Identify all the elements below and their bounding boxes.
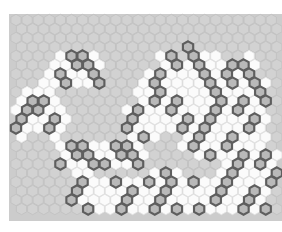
hex-cell-cleared[interactable] (105, 203, 115, 214)
hex-cell-marked[interactable] (139, 131, 149, 142)
hex-cell-marked[interactable] (261, 95, 271, 106)
hex-cell-cleared[interactable] (33, 122, 43, 133)
hex-cell-empty[interactable] (28, 203, 38, 214)
hex-cell-marked[interactable] (211, 194, 221, 205)
hex-cell-marked[interactable] (150, 203, 160, 214)
hex-cell-marked[interactable] (55, 158, 65, 169)
hex-cell-marked[interactable] (72, 59, 82, 70)
hex-cell-marked[interactable] (66, 194, 76, 205)
hex-cell-marked[interactable] (266, 176, 276, 187)
hex-cell-cleared[interactable] (94, 203, 104, 214)
hex-cell-marked[interactable] (72, 149, 82, 160)
hex-cell-marked[interactable] (100, 158, 110, 169)
hex-cell-cleared[interactable] (177, 140, 187, 151)
hex-grid-canvas (0, 0, 282, 232)
hex-cell-marked[interactable] (233, 104, 243, 115)
hex-cell-marked[interactable] (116, 149, 126, 160)
hex-cell-marked[interactable] (44, 122, 54, 133)
hex-cell-empty[interactable] (272, 203, 282, 214)
hex-cell-marked[interactable] (261, 203, 271, 214)
hex-cell-marked[interactable] (166, 104, 176, 115)
hex-cell-marked[interactable] (61, 77, 71, 88)
hex-cell-cleared[interactable] (166, 122, 176, 133)
hex-cell-cleared[interactable] (150, 131, 160, 142)
hex-cell-marked[interactable] (205, 149, 215, 160)
hex-cell-cleared[interactable] (72, 77, 82, 88)
hex-cell-marked[interactable] (172, 59, 182, 70)
hex-cell-marked[interactable] (33, 104, 43, 115)
hex-cell-marked[interactable] (89, 158, 99, 169)
hex-cell-marked[interactable] (255, 158, 265, 169)
hex-cell-marked[interactable] (144, 176, 154, 187)
hex-cell-marked[interactable] (122, 122, 132, 133)
hex-cell-empty[interactable] (50, 203, 60, 214)
hex-cell-marked[interactable] (11, 122, 21, 133)
hex-cell-marked[interactable] (116, 203, 126, 214)
hex-cell-marked[interactable] (94, 77, 104, 88)
hex-cell-marked[interactable] (83, 203, 93, 214)
hex-cell-marked[interactable] (238, 203, 248, 214)
hex-cell-marked[interactable] (222, 140, 232, 151)
hex-cell-empty[interactable] (39, 203, 49, 214)
hex-cell-cleared[interactable] (139, 203, 149, 214)
hex-cell-marked[interactable] (188, 140, 198, 151)
hex-cell-marked[interactable] (244, 122, 254, 133)
hex-cell-marked[interactable] (227, 77, 237, 88)
hex-cell-marked[interactable] (194, 203, 204, 214)
hex-cell-marked[interactable] (150, 95, 160, 106)
hex-cell-cleared[interactable] (183, 203, 193, 214)
hex-cell-marked[interactable] (188, 176, 198, 187)
hex-cell-empty[interactable] (16, 203, 26, 214)
hex-cell-marked[interactable] (133, 158, 143, 169)
hex-cell-marked[interactable] (177, 122, 187, 133)
hex-cell-marked[interactable] (111, 176, 121, 187)
hexagonal-tiling-board[interactable] (0, 0, 282, 232)
hex-cell-marked[interactable] (172, 203, 182, 214)
hex-cell-cleared[interactable] (227, 203, 237, 214)
